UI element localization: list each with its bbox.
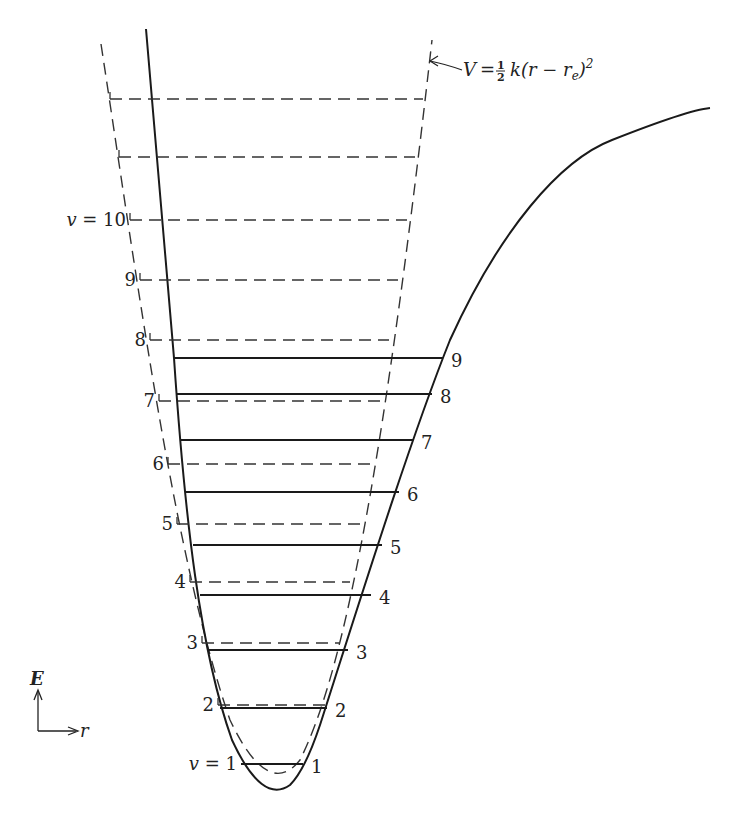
- harmonic-level-label: 7: [144, 390, 155, 411]
- anharmonic-level-label: 8: [440, 386, 451, 407]
- harmonic-levels: v = 1098765432v = 1: [66, 92, 423, 774]
- harmonic-level-label: 6: [153, 453, 164, 474]
- harmonic-level-label: 2: [203, 694, 214, 715]
- anharmonic-level-label: 5: [390, 537, 401, 558]
- harmonic-level-label: 8: [135, 329, 146, 350]
- energy-diagram: v = 1098765432v = 1 987654321 V = 1 2 k(…: [0, 0, 743, 822]
- harmonic-level-label: 5: [162, 513, 173, 534]
- formula-rhs: k(r − re)2: [510, 57, 593, 83]
- harmonic-level-label: 4: [175, 571, 186, 592]
- anharmonic-level-label: 7: [421, 432, 432, 453]
- anharmonic-level-label: 9: [451, 350, 462, 371]
- anharmonic-level-label: 6: [407, 484, 418, 505]
- anharmonic-level-label: 3: [356, 642, 367, 663]
- axis-indicator: E r: [29, 668, 90, 741]
- formula-eq: =: [480, 59, 495, 80]
- harmonic-level-label: 3: [187, 632, 198, 653]
- distance-axis-label: r: [80, 720, 90, 741]
- anharmonic-level-label: 2: [335, 700, 346, 721]
- harmonic-level-label: 9: [125, 269, 136, 290]
- formula-lhs: V: [463, 59, 478, 80]
- formula-frac-den: 2: [497, 71, 505, 84]
- anharmonic-levels: 987654321: [174, 350, 462, 777]
- anharmonic-level-label: 4: [379, 587, 390, 608]
- formula-annotation: V = 1 2 k(r − re)2: [430, 56, 593, 84]
- harmonic-level-label: v = 1: [189, 753, 237, 774]
- arrow-icon: [430, 61, 462, 70]
- anharmonic-level-label: 1: [311, 756, 322, 777]
- harmonic-level-label: v = 10: [66, 209, 126, 230]
- morse-potential-curve: [146, 29, 710, 790]
- energy-axis-label: E: [29, 668, 44, 689]
